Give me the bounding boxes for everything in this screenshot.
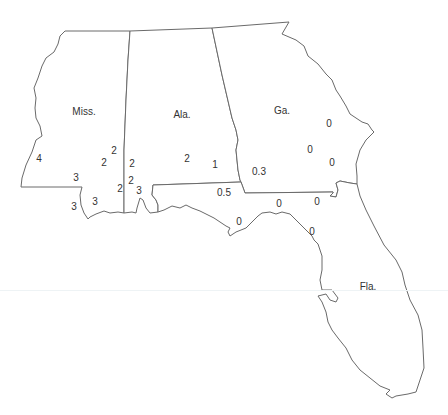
value-label: 0.5 [217, 188, 231, 198]
value-label: 3 [92, 197, 98, 207]
faint-horizontal-line [0, 290, 448, 291]
value-label: 0 [314, 197, 320, 207]
value-label: 2 [184, 154, 190, 164]
value-label: 0 [309, 227, 315, 237]
value-label: 2 [117, 184, 123, 194]
value-label: 0 [236, 217, 242, 227]
value-label: 2 [101, 158, 107, 168]
value-label: 0.3 [252, 167, 266, 177]
state-label-florida: Fla. [360, 282, 377, 292]
value-label: 1 [212, 160, 218, 170]
state-label-alabama: Ala. [173, 110, 190, 120]
state-label-georgia: Ga. [274, 106, 290, 116]
value-label: 2 [129, 159, 135, 169]
value-label: 3 [136, 186, 142, 196]
value-label: 3 [73, 173, 79, 183]
value-label: 0 [276, 199, 282, 209]
value-label: 4 [36, 154, 42, 164]
value-label: 3 [71, 202, 77, 212]
value-label: 2 [128, 176, 134, 186]
state-label-mississippi: Miss. [72, 107, 95, 117]
map-canvas [0, 0, 448, 415]
value-label: 0 [307, 145, 313, 155]
state-mississippi [21, 31, 130, 219]
value-label: 2 [111, 146, 117, 156]
value-label: 0 [326, 119, 332, 129]
value-label: 0 [329, 158, 335, 168]
